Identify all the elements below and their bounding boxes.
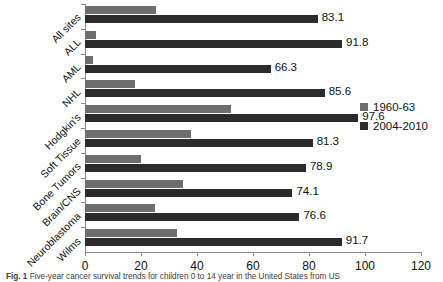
bar-2004-2010 bbox=[85, 139, 313, 147]
bar-1960-63 bbox=[85, 155, 141, 163]
figure-caption-text: Five-year cancer survival trends for chi… bbox=[30, 272, 340, 281]
legend-item-2004-2010: 2004-2010 bbox=[360, 118, 443, 134]
bar-value-label: 83.1 bbox=[322, 11, 344, 23]
bar-group: 91.8 bbox=[85, 29, 421, 54]
x-axis-tick bbox=[85, 252, 86, 256]
y-axis-tick bbox=[81, 29, 85, 30]
x-axis-tick-label: 20 bbox=[134, 259, 147, 273]
bar-1960-63 bbox=[85, 105, 231, 113]
bar-2004-2010 bbox=[85, 164, 306, 172]
y-axis-tick bbox=[81, 227, 85, 228]
bar-1960-63 bbox=[85, 204, 155, 212]
bar-1960-63 bbox=[85, 229, 177, 237]
x-axis-tick bbox=[253, 252, 254, 256]
bar-1960-63 bbox=[85, 180, 183, 188]
x-axis-tick bbox=[141, 252, 142, 256]
y-axis-tick bbox=[81, 103, 85, 104]
bar-2004-2010 bbox=[85, 15, 318, 23]
bar-2004-2010 bbox=[85, 89, 325, 97]
bar-value-label: 91.7 bbox=[346, 234, 368, 246]
y-axis-tick bbox=[81, 178, 85, 179]
bar-2004-2010 bbox=[85, 213, 299, 221]
legend-swatch-icon-2004-2010 bbox=[360, 122, 368, 130]
bar-group: 78.9 bbox=[85, 153, 421, 178]
bar-1960-63 bbox=[85, 80, 135, 88]
x-axis-tick-label: 60 bbox=[246, 259, 259, 273]
bar-group: 83.1 bbox=[85, 4, 421, 29]
bar-value-label: 81.3 bbox=[317, 135, 339, 147]
bar-group: 76.6 bbox=[85, 202, 421, 227]
y-axis-tick bbox=[81, 153, 85, 154]
x-axis-tick-label: 40 bbox=[190, 259, 203, 273]
y-axis-tick bbox=[81, 202, 85, 203]
bar-value-label: 66.3 bbox=[275, 61, 297, 73]
figure-caption: Fig. 1 Five-year cancer survival trends … bbox=[6, 272, 443, 281]
bar-2004-2010 bbox=[85, 238, 342, 246]
bar-value-label: 74.1 bbox=[296, 185, 318, 197]
legend-item-1960-63: 1960-63 bbox=[360, 99, 443, 115]
x-axis-tick-label: 0 bbox=[82, 259, 89, 273]
x-axis-tick bbox=[309, 252, 310, 256]
y-axis-tick bbox=[81, 54, 85, 55]
figure-number: Fig. 1 bbox=[6, 272, 27, 281]
legend-label-2004-2010: 2004-2010 bbox=[373, 120, 428, 132]
x-axis-tick-label: 120 bbox=[411, 259, 431, 273]
bar-value-label: 85.6 bbox=[329, 85, 351, 97]
bar-value-label: 91.8 bbox=[346, 36, 368, 48]
bar-1960-63 bbox=[85, 130, 191, 138]
bar-2004-2010 bbox=[85, 114, 358, 122]
chart-legend: 1960-63 2004-2010 bbox=[360, 99, 443, 137]
bar-2004-2010 bbox=[85, 189, 292, 197]
legend-label-1960-63: 1960-63 bbox=[373, 101, 415, 113]
x-axis-tick-label: 100 bbox=[355, 259, 375, 273]
bar-group: 74.1 bbox=[85, 178, 421, 203]
x-axis-tick-label: 80 bbox=[302, 259, 315, 273]
y-axis-tick bbox=[81, 78, 85, 79]
bar-1960-63 bbox=[85, 31, 96, 39]
y-axis-tick bbox=[81, 4, 85, 5]
x-axis-tick bbox=[197, 252, 198, 256]
bar-group: 91.7 bbox=[85, 227, 421, 252]
bar-1960-63 bbox=[85, 6, 156, 14]
x-axis-tick bbox=[365, 252, 366, 256]
bar-1960-63 bbox=[85, 56, 93, 64]
y-axis-tick bbox=[81, 128, 85, 129]
bar-value-label: 76.6 bbox=[303, 209, 325, 221]
x-axis-tick bbox=[421, 252, 422, 256]
bar-2004-2010 bbox=[85, 65, 271, 73]
bar-2004-2010 bbox=[85, 40, 342, 48]
legend-swatch-icon-1960-63 bbox=[360, 103, 368, 111]
bar-group: 66.3 bbox=[85, 54, 421, 79]
survival-trends-bar-chart: 83.191.866.385.697.681.378.974.176.691.7… bbox=[0, 0, 443, 282]
bar-value-label: 78.9 bbox=[310, 160, 332, 172]
